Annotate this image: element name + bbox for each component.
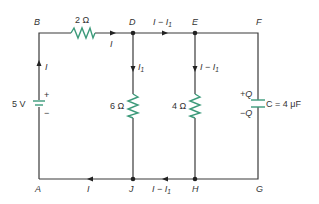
label-2ohm: 2 Ω <box>75 15 90 25</box>
node-dot-E <box>193 31 198 36</box>
node-label-J: J <box>128 184 134 194</box>
node-label-H: H <box>192 184 199 194</box>
node-label-E: E <box>192 17 199 27</box>
node-label-F: F <box>256 17 262 27</box>
node-label-A: A <box>34 184 41 194</box>
circuit-diagram: B D E F A J H G 2 Ω 6 Ω 4 Ω 5 V + − C = … <box>0 0 319 204</box>
current-JA: I <box>87 184 90 194</box>
label-battery: 5 V <box>12 99 26 109</box>
resistor-2ohm <box>71 28 95 38</box>
resistor-4ohm <box>190 94 200 118</box>
arrow-down-icon <box>131 66 136 72</box>
capacitor <box>251 100 265 107</box>
node-dot-D <box>131 31 136 36</box>
arrow-left-icon <box>162 177 168 182</box>
label-minus-q: −Q <box>240 108 252 118</box>
label-4ohm: 4 Ω <box>172 101 187 111</box>
node-label-B: B <box>34 17 40 27</box>
arrow-up-icon <box>37 60 42 66</box>
arrow-down-icon <box>193 66 198 72</box>
battery-plus: + <box>44 90 49 100</box>
arrow-right-icon <box>110 31 116 36</box>
label-6ohm: 6 Ω <box>110 101 125 111</box>
battery <box>33 100 45 107</box>
node-label-D: D <box>129 17 136 27</box>
node-label-G: G <box>256 184 263 194</box>
current-HJ: I − I1 <box>152 184 171 195</box>
battery-minus: − <box>44 108 49 118</box>
arrow-right-icon <box>162 31 168 36</box>
label-plus-q: +Q <box>240 89 252 99</box>
current-top: I <box>110 39 113 49</box>
resistor-6ohm <box>128 94 138 118</box>
arrow-left-icon <box>87 177 93 182</box>
node-dot-H <box>193 177 198 182</box>
current-left: I <box>45 62 48 72</box>
label-capacitor: C = 4 μF <box>266 99 301 109</box>
wires <box>39 33 258 179</box>
current-branch-E: I − I1 <box>200 62 219 73</box>
current-branch-D: I1 <box>138 62 145 73</box>
current-DE: I − I1 <box>153 17 172 28</box>
node-dot-J <box>131 177 136 182</box>
